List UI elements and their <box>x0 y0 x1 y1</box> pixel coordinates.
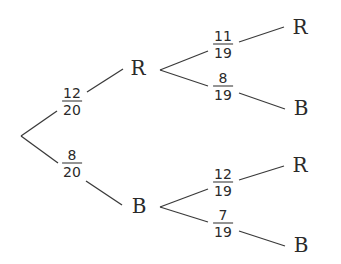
node-red-blue: B <box>294 98 309 118</box>
edge-b-to-bb-part1 <box>160 207 208 222</box>
node-blue-red: R <box>292 155 307 175</box>
probability-red-then-blue: 8 19 <box>213 71 233 102</box>
numerator: 8 <box>67 148 78 163</box>
edge-b-to-br-part2 <box>239 166 284 180</box>
probability-first-blue: 8 20 <box>62 148 82 179</box>
numerator: 11 <box>213 29 233 44</box>
edge-b-to-bb-part2 <box>239 231 285 246</box>
denominator: 19 <box>213 87 233 102</box>
edge-root-to-b-part2 <box>86 181 122 205</box>
probability-blue-then-blue: 7 19 <box>213 208 233 239</box>
probability-red-then-red: 11 19 <box>213 29 233 60</box>
probability-first-red: 12 20 <box>62 86 82 117</box>
node-first-red: R <box>130 58 145 78</box>
probability-blue-then-red: 12 19 <box>213 167 233 198</box>
denominator: 19 <box>213 45 233 60</box>
numerator: 12 <box>62 86 82 101</box>
edge-b-to-br-part1 <box>160 189 208 207</box>
denominator: 20 <box>62 102 82 117</box>
edge-r-to-rr-part1 <box>160 51 208 70</box>
denominator: 19 <box>213 183 233 198</box>
node-blue-blue: B <box>294 235 309 255</box>
node-red-red: R <box>292 17 307 37</box>
edge-r-to-rb-part1 <box>160 70 208 86</box>
edge-root-to-r-part2 <box>87 69 123 92</box>
numerator: 8 <box>218 71 229 86</box>
denominator: 20 <box>62 164 82 179</box>
edge-r-to-rr-part2 <box>239 27 284 42</box>
numerator: 7 <box>218 208 229 223</box>
edge-r-to-rb-part2 <box>239 93 285 109</box>
edge-root-to-r-part1 <box>21 111 57 136</box>
tree-edges <box>0 0 341 264</box>
denominator: 19 <box>213 224 233 239</box>
numerator: 12 <box>213 167 233 182</box>
edge-root-to-b-part1 <box>21 136 58 163</box>
node-first-blue: B <box>132 196 147 216</box>
